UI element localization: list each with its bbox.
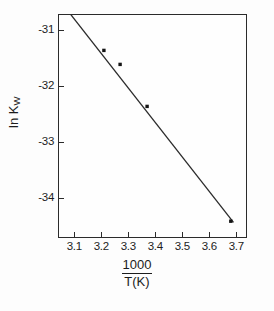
y-axis-title-subscript: W — [11, 97, 22, 106]
fit-line — [61, 14, 234, 222]
x-axis-title-fraction: 1000 T(K) — [122, 258, 153, 289]
y-tick-label--34: -34 — [24, 191, 54, 203]
regression-line — [61, 14, 234, 222]
y-tick-label--31: -31 — [24, 23, 54, 35]
x-tick-label-3.7: 3.7 — [219, 240, 253, 252]
x-tick-3.4 — [155, 232, 156, 238]
chart-figure: 3.13.23.33.43.53.63.7 -31-32-33-34 ln KW… — [0, 0, 274, 311]
data-point — [229, 220, 232, 223]
x-axis-title-denominator: T(K) — [122, 274, 153, 290]
data-point — [145, 105, 148, 108]
x-tick-3.2 — [101, 232, 102, 238]
data-point — [102, 49, 105, 52]
x-tick-3.3 — [128, 232, 129, 238]
x-axis-title: 1000 T(K) — [0, 258, 274, 289]
y-tick-label--32: -32 — [24, 79, 54, 91]
plot-data-area — [58, 14, 247, 238]
data-point — [118, 63, 121, 66]
y-tick--32 — [58, 86, 64, 87]
x-tick-3.6 — [209, 232, 210, 238]
y-axis-title: ln KW — [6, 82, 22, 142]
x-tick-3.5 — [182, 232, 183, 238]
y-tick--33 — [58, 142, 64, 143]
x-tick-3.1 — [74, 232, 75, 238]
y-axis-title-main: ln K — [6, 105, 21, 127]
y-tick--34 — [58, 198, 64, 199]
x-axis-title-numerator: 1000 — [122, 258, 153, 274]
y-tick--31 — [58, 30, 64, 31]
x-tick-3.7 — [236, 232, 237, 238]
y-tick-label--33: -33 — [24, 135, 54, 147]
